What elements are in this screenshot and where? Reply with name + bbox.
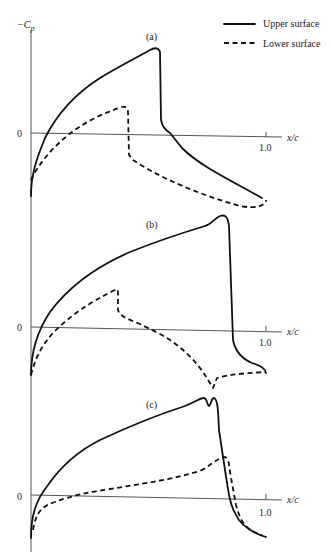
legend: Upper surface Lower surface [224, 18, 321, 49]
panel-b-x-axis-title: x/c [286, 326, 299, 337]
panel-a-x-axis-title: x/c [286, 132, 299, 143]
panel-a-zero-label: 0 [17, 128, 22, 139]
panel-b-zero-label: 0 [17, 322, 22, 333]
panel-b-label: (b) [146, 219, 158, 231]
legend-upper-label: Upper surface [263, 18, 320, 29]
y-axis-title: −Cp [17, 19, 34, 33]
panel-c: (c) 1.0 0 x/c [17, 398, 299, 538]
panel-b-lower-surface [31, 289, 265, 388]
panel-c-zero-label: 0 [17, 491, 22, 502]
panel-c-tick-1-label: 1.0 [259, 507, 272, 518]
panel-a-label: (a) [146, 31, 157, 43]
panel-c-label: (c) [146, 399, 157, 411]
panel-b: (b) 1.0 0 x/c [17, 215, 299, 388]
panel-a-tick-1-label: 1.0 [259, 142, 272, 153]
panel-a-lower-surface [31, 107, 266, 207]
panel-c-upper-surface [31, 398, 266, 538]
panel-b-tick-1-label: 1.0 [259, 337, 272, 348]
panel-b-upper-surface [31, 215, 266, 375]
pressure-distribution-chart: −Cp Upper surface Lower surface (a) 1.0 … [0, 0, 331, 552]
legend-lower-label: Lower surface [263, 38, 321, 49]
panel-a: (a) 1.0 0 x/c [17, 31, 299, 207]
panel-a-upper-surface [31, 48, 262, 198]
panel-c-x-axis-title: x/c [286, 494, 299, 505]
